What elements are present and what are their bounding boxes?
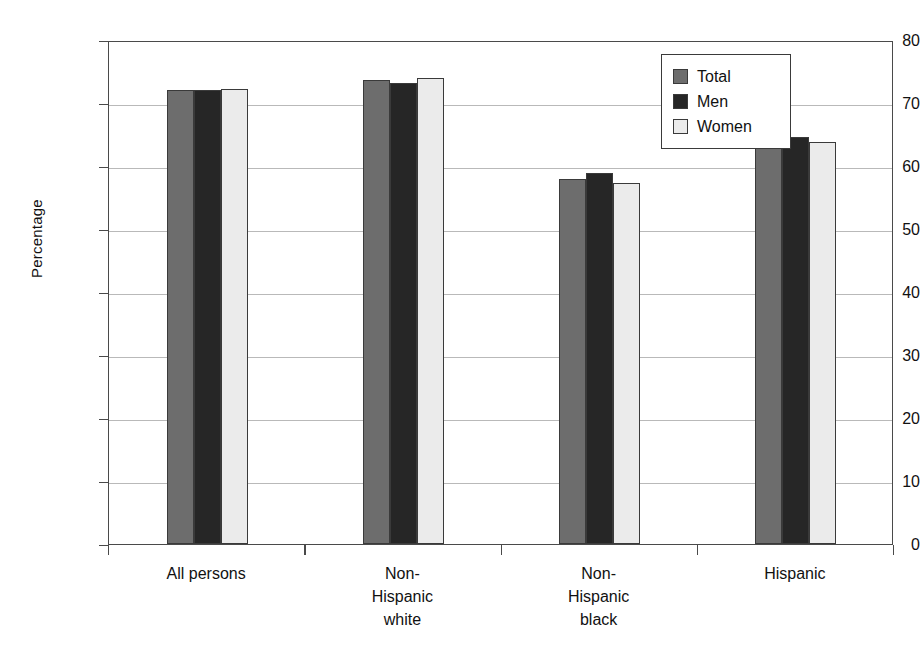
legend-items: TotalMenWomen <box>673 64 780 139</box>
y-axis-tick <box>99 356 108 357</box>
x-axis-tick <box>893 545 894 555</box>
legend-item: Men <box>673 89 780 114</box>
bar-chart: Percentage 01020304050607080 All persons… <box>0 0 920 646</box>
bar-group <box>363 42 444 544</box>
y-axis-tick <box>99 230 108 231</box>
bar-group <box>559 42 640 544</box>
bar-men <box>194 90 221 544</box>
y-axis-tick <box>99 545 108 546</box>
legend-swatch-icon <box>673 69 688 84</box>
bar-group <box>167 42 248 544</box>
y-axis-tick <box>99 293 108 294</box>
bar-men <box>782 137 809 544</box>
y-axis-tick <box>99 167 108 168</box>
y-axis-tick <box>99 41 108 42</box>
bar-women <box>613 183 640 544</box>
x-axis-tick <box>697 545 698 555</box>
x-axis-tick <box>304 545 305 555</box>
legend-item: Women <box>673 114 780 139</box>
bar-total <box>363 80 390 544</box>
bar-total <box>167 90 194 544</box>
x-axis-tick <box>108 545 109 555</box>
legend-swatch-icon <box>673 94 688 109</box>
bar-men <box>390 83 417 544</box>
y-axis-tick <box>99 419 108 420</box>
y-axis-tick <box>99 104 108 105</box>
x-axis-tick <box>501 545 502 555</box>
bar-total <box>755 140 782 544</box>
x-axis-category-label: All persons <box>108 562 304 585</box>
bar-total <box>559 179 586 544</box>
bar-women <box>417 78 444 544</box>
legend-label: Women <box>697 118 752 136</box>
y-axis-tick <box>99 482 108 483</box>
x-axis-category-label: Hispanic <box>697 562 893 585</box>
x-axis-category-label: Non-Hispanicblack <box>501 562 697 631</box>
bar-women <box>221 89 248 544</box>
y-axis-title: Percentage <box>28 159 45 319</box>
legend-swatch-icon <box>673 119 688 134</box>
legend: TotalMenWomen <box>661 54 791 149</box>
legend-label: Men <box>697 93 728 111</box>
legend-item: Total <box>673 64 780 89</box>
legend-label: Total <box>697 68 731 86</box>
x-axis-category-label: Non-Hispanicwhite <box>304 562 500 631</box>
bar-men <box>586 173 613 544</box>
bar-women <box>809 142 836 544</box>
